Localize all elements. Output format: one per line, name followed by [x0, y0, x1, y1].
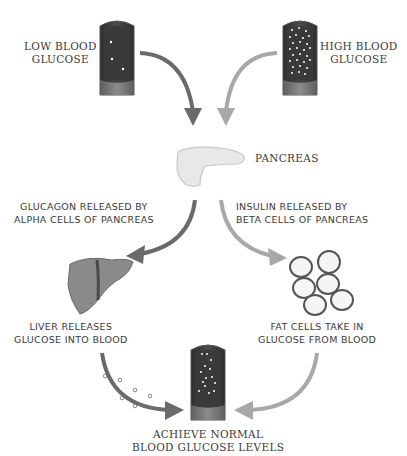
- fat-cells-line2: GLUCOSE FROM BLOOD: [258, 333, 376, 346]
- glucagon-line1: GLUCAGON RELEASED BY: [14, 200, 154, 213]
- pancreas-label: PANCREAS: [255, 152, 319, 165]
- fat-cells-icon: [290, 251, 353, 315]
- arrow-high-to-pancreas: [217, 53, 277, 126]
- high-glucose-line2: GLUCOSE: [320, 53, 398, 66]
- low-glucose-label: LOW BLOOD GLUCOSE: [24, 40, 97, 66]
- normal-glucose-label: ACHIEVE NORMAL BLOOD GLUCOSE LEVELS: [132, 428, 284, 454]
- arrow-fat-to-normal: [234, 353, 317, 420]
- insulin-line2: BETA CELLS OF PANCREAS: [236, 213, 368, 226]
- arrow-low-to-pancreas: [140, 53, 202, 126]
- normal-line2: BLOOD GLUCOSE LEVELS: [132, 441, 284, 454]
- low-glucose-line1: LOW BLOOD: [24, 40, 97, 53]
- glucagon-line2: ALPHA CELLS OF PANCREAS: [14, 213, 154, 226]
- glucagon-label: GLUCAGON RELEASED BY ALPHA CELLS OF PANC…: [14, 200, 154, 226]
- liver-line2: GLUCOSE INTO BLOOD: [14, 333, 128, 346]
- fat-cells-label: FAT CELLS TAKE IN GLUCOSE FROM BLOOD: [258, 320, 376, 346]
- normal-line1: ACHIEVE NORMAL: [132, 428, 284, 441]
- arrow-liver-to-normal: [102, 353, 184, 420]
- high-glucose-label: HIGH BLOOD GLUCOSE: [320, 40, 398, 66]
- liver-label: LIVER RELEASES GLUCOSE INTO BLOOD: [14, 320, 128, 346]
- fat-cells-line1: FAT CELLS TAKE IN: [258, 320, 376, 333]
- high-glucose-line1: HIGH BLOOD: [320, 40, 398, 53]
- diagram-artwork: [0, 0, 407, 456]
- liver-line1: LIVER RELEASES: [14, 320, 128, 333]
- insulin-line1: INSULIN RELEASED BY: [236, 200, 368, 213]
- low-glucose-tube-icon: [100, 21, 134, 95]
- normal-glucose-tube-icon: [191, 345, 225, 420]
- insulin-label: INSULIN RELEASED BY BETA CELLS OF PANCRE…: [236, 200, 368, 226]
- liver-icon: [68, 258, 133, 314]
- low-glucose-line2: GLUCOSE: [24, 53, 97, 66]
- pancreas-icon: [177, 147, 245, 186]
- high-glucose-tube-icon: [283, 21, 317, 95]
- pancreas-text: PANCREAS: [255, 152, 319, 165]
